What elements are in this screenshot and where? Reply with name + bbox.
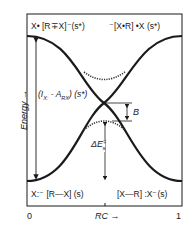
gap-label: (IX: - ARX) (s*) bbox=[38, 90, 87, 101]
bottom-left-state-label: X:⁻ [R—X] (s) bbox=[31, 190, 84, 199]
top-left-state-label: X• [R∓X]⁻(s*) bbox=[31, 22, 85, 31]
x-axis-label: RC → bbox=[95, 212, 120, 221]
x-tick-1: 1 bbox=[176, 212, 181, 221]
curve-product bbox=[27, 36, 182, 181]
b-label: B bbox=[133, 108, 139, 117]
upper-avoided-crossing bbox=[84, 72, 125, 80]
x-tick-0: 0 bbox=[27, 212, 32, 221]
curve-reactant bbox=[27, 36, 182, 181]
bottom-right-state-label: [X—R] :X⁻(s) bbox=[117, 190, 167, 199]
barrier-label: ΔE‡s bbox=[91, 139, 105, 152]
top-right-state-label: ⁻[X•R] •X (s*) bbox=[109, 22, 160, 31]
y-axis-label: Energy → bbox=[19, 90, 29, 130]
